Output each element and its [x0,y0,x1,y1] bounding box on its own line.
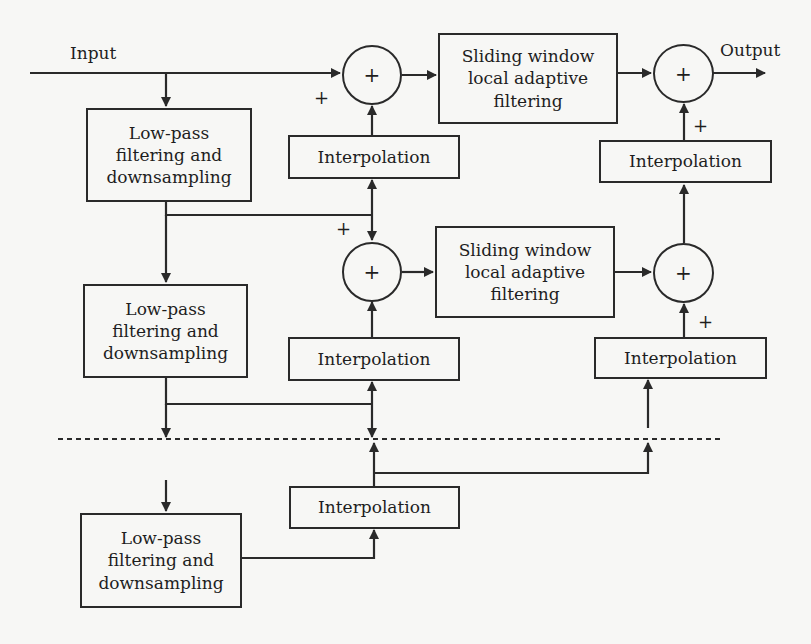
interpolation-block-3: Interpolation [289,486,460,529]
plus-sign-adder-4: + [698,313,713,331]
lpf3-to-interp3 [242,530,374,558]
lowpass-block-1: Low-pass filtering and downsampling [86,108,252,202]
adaptive-filter-block-2: Sliding window local adaptive filtering [435,226,615,318]
adaptive-filter-block-1: Sliding window local adaptive filtering [438,33,618,124]
interpolation-block-mid-right: Interpolation [594,337,767,379]
interp3-branch-right [374,443,648,473]
lpf2-branch [166,378,372,404]
adder-4: + [653,243,714,303]
interpolation-block-1: Interpolation [288,135,460,179]
output-label: Output [720,42,780,59]
lpf1-branch [166,202,372,215]
lowpass-block-2: Low-pass filtering and downsampling [83,284,248,378]
plus-sign-adder-1: + [314,89,329,107]
lowpass-block-3: Low-pass filtering and downsampling [80,513,242,608]
plus-sign-adder-output: + [693,117,708,135]
plus-sign-adder-2: + [336,220,351,238]
interpolation-block-2: Interpolation [288,337,460,381]
input-label: Input [70,45,116,62]
adder-output: + [653,44,714,103]
interpolation-block-top-right: Interpolation [599,140,772,183]
adder-1: + [342,45,402,105]
adder-2: + [342,242,402,302]
